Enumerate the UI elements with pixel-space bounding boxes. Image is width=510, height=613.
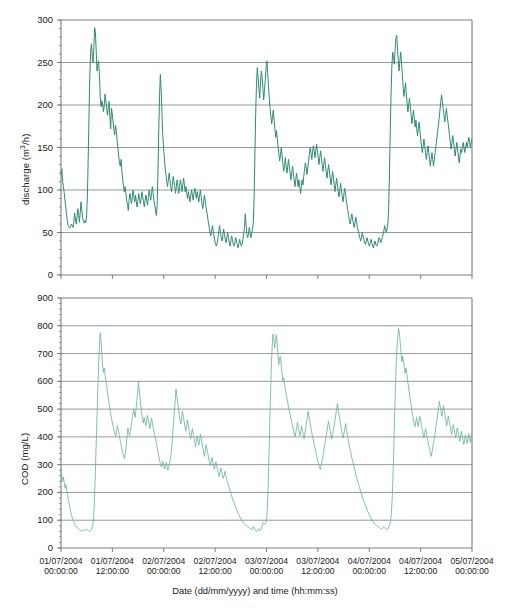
- x-tick-date: 01/07/2004: [91, 556, 134, 566]
- y-tick-label: 700: [0, 349, 53, 359]
- chart-panel-discharge: discharge (m3/h) 050100150200250300: [0, 0, 510, 290]
- x-tick-date: 04/07/2004: [348, 556, 391, 566]
- x-tick-date: 02/07/2004: [194, 556, 237, 566]
- x-tick-date: 02/07/2004: [142, 556, 185, 566]
- y-tick-label: 200: [0, 487, 53, 497]
- x-tick-date: 03/07/2004: [245, 556, 288, 566]
- y-tick-label: 600: [0, 376, 53, 386]
- x-axis-title: Date (dd/mm/yyyy) and time (hh:mm:ss): [0, 586, 510, 596]
- y-tick-label: 50: [0, 228, 53, 238]
- x-tick-time: 12:00:00: [96, 566, 129, 576]
- x-tick-time: 00:00:00: [353, 566, 386, 576]
- x-tick-label: 05/07/200400:00:00: [440, 556, 504, 577]
- x-tick-time: 00:00:00: [250, 566, 283, 576]
- x-tick-date: 01/07/2004: [39, 556, 82, 566]
- y-tick-label: 800: [0, 321, 53, 331]
- y-tick-label: 100: [0, 515, 53, 525]
- x-tick-time: 00:00:00: [455, 566, 488, 576]
- discharge-plot: [0, 0, 510, 290]
- y-tick-label: 300: [0, 460, 53, 470]
- x-tick-date: 05/07/2004: [450, 556, 493, 566]
- x-tick-time: 12:00:00: [198, 566, 231, 576]
- y-tick-label: 0: [0, 543, 53, 553]
- x-tick-time: 00:00:00: [44, 566, 77, 576]
- y-tick-label: 300: [0, 15, 53, 25]
- x-tick-time: 00:00:00: [147, 566, 180, 576]
- y-tick-label: 250: [0, 58, 53, 68]
- chart-panel-cod: COD (mg/L) Date (dd/mm/yyyy) and time (h…: [0, 290, 510, 613]
- y-tick-label: 200: [0, 100, 53, 110]
- figure-root: discharge (m3/h) 050100150200250300 COD …: [0, 0, 510, 613]
- x-tick-date: 03/07/2004: [296, 556, 339, 566]
- y-tick-label: 0: [0, 270, 53, 280]
- y-tick-label: 400: [0, 432, 53, 442]
- y-tick-label: 900: [0, 293, 53, 303]
- x-tick-time: 12:00:00: [404, 566, 437, 576]
- y-tick-label: 100: [0, 185, 53, 195]
- y-tick-label: 500: [0, 404, 53, 414]
- x-tick-date: 04/07/2004: [399, 556, 442, 566]
- y-tick-label: 150: [0, 143, 53, 153]
- x-tick-time: 12:00:00: [301, 566, 334, 576]
